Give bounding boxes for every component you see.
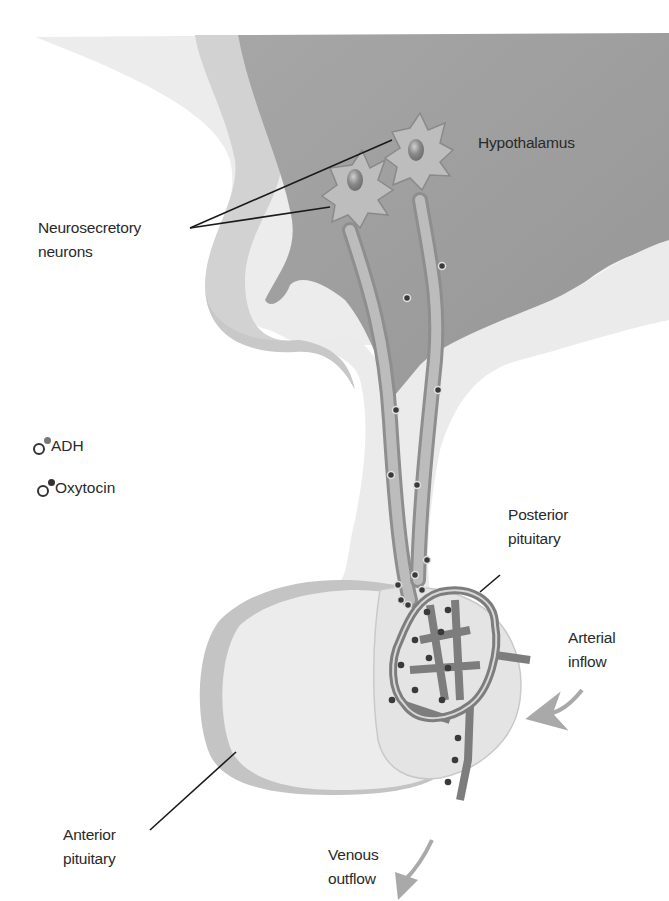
open-granule-icon (37, 485, 49, 497)
legend-item-adh: ADH (33, 437, 84, 455)
label-venous-outflow: Venous outflow (328, 845, 379, 888)
label-hypothalamus: Hypothalamus (478, 133, 575, 152)
venous-outflow-arrow (395, 840, 432, 900)
arterial-inflow-arrow (545, 690, 582, 715)
adh-granule-icon (44, 437, 51, 444)
label-anterior-pituitary: Anterior pituitary (63, 825, 116, 868)
label-posterior-pituitary: Posterior pituitary (508, 505, 568, 548)
oxytocin-granule-icon (48, 479, 55, 486)
label-neurosecretory-neurons: Neurosecretory neurons (38, 218, 141, 261)
open-granule-icon (33, 443, 45, 455)
legend-item-oxytocin: Oxytocin (37, 479, 115, 497)
label-arterial-inflow: Arterial inflow (568, 628, 616, 671)
